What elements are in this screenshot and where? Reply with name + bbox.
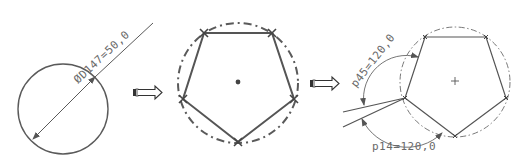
arrow-1-right-icon [133,86,162,99]
angle-dimension-label-p14: p14=120,0 [372,140,436,153]
diameter-dimension-label: ØD147=50,0 [71,28,132,86]
vertex-markers [179,29,298,146]
step-3-pentagon-group: p45=120,0 p14=120,0 [343,27,510,153]
diameter-dimension-line [33,77,95,139]
step-2-pentagon-group [178,23,298,146]
arrow-2-right-icon [310,77,339,90]
extension-line-upper [343,98,405,112]
center-cross-icon [451,77,459,85]
vertex-markers [403,35,508,138]
pentagon [183,33,294,142]
center-point [236,80,241,85]
angle-dimension-label-p45: p45=120,0 [348,31,398,90]
pentagon [405,37,506,136]
extension-line-lower [343,98,405,127]
construction-diagram: ØD147=50,0 [0,0,524,167]
step-1-circle-group: ØD147=50,0 [18,23,153,154]
